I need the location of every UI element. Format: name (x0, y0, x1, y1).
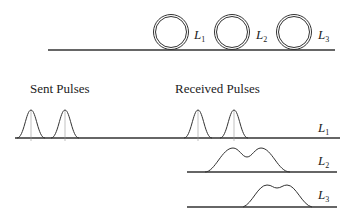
fiber-loop-2 (215, 15, 250, 50)
sent-pulse-2 (51, 110, 79, 141)
received-pulses-heading: Received Pulses (175, 81, 260, 96)
row-label-2: L2 (317, 153, 329, 170)
loop-label-1: L1 (193, 27, 205, 44)
loop-label-3: L3 (317, 27, 329, 44)
fiber-loop-1 (154, 15, 189, 50)
fiber-loop-3 (277, 15, 312, 50)
received-pulse-2 (220, 110, 248, 141)
row-label-3: L3 (317, 187, 329, 204)
received-pulse-broadened-l3 (243, 185, 312, 207)
received-pulse-1 (184, 110, 212, 141)
loop-label-2: L2 (255, 27, 267, 44)
pulse-dispersion-diagram: L1 L2 L3 Sent Pulses Received Pulses L1 … (0, 0, 352, 219)
row-label-1: L1 (317, 120, 329, 137)
sent-pulses-heading: Sent Pulses (30, 81, 90, 96)
received-pulse-broadened-l2 (205, 148, 290, 172)
sent-pulse-1 (17, 110, 45, 141)
